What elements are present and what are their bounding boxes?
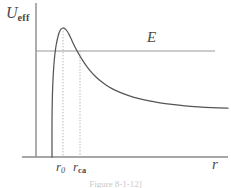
- y-axis-label-subscript: eff: [18, 12, 30, 23]
- tick-label-r0-subscript: 0: [61, 166, 65, 175]
- tick-label-rca: rca: [73, 160, 86, 173]
- figure-container: Ueff E r r0 rca Figure 8-1-12]: [0, 0, 231, 188]
- y-axis-label-base: U: [6, 4, 18, 21]
- energy-level-label: E: [147, 30, 156, 45]
- figure-caption: Figure 8-1-12]: [0, 179, 231, 188]
- x-axis-label: r: [212, 157, 218, 172]
- y-axis-label: Ueff: [6, 5, 30, 21]
- tick-label-r0: r0: [56, 160, 65, 173]
- tick-label-rca-subscript: ca: [78, 166, 86, 175]
- effective-potential-plot: [0, 0, 231, 188]
- effective-potential-curve: [52, 28, 228, 157]
